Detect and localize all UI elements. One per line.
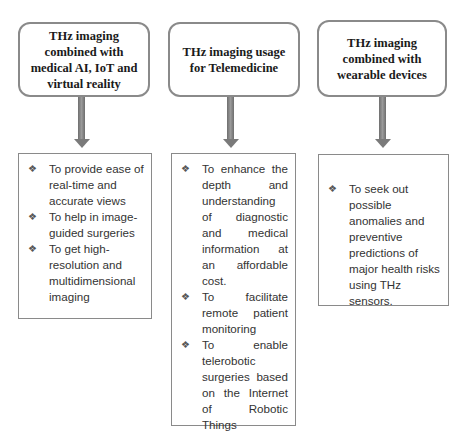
bullet-icon: ❖ xyxy=(181,161,190,177)
list-item: ❖To enable telerobotic surgeries based o… xyxy=(172,337,288,433)
list-item: ❖To seek out possible anomalies and prev… xyxy=(319,181,444,309)
bullet-icon: ❖ xyxy=(181,337,190,353)
header-box-wearables: THz imaging combined with wearable devic… xyxy=(317,20,447,97)
arrow-down-icon xyxy=(74,139,90,148)
detail-box-wearables: ❖To seek out possible anomalies and prev… xyxy=(318,154,449,306)
arrow-shaft xyxy=(379,97,386,140)
bullet-icon: ❖ xyxy=(28,241,37,257)
list-item: ❖To facilitate remote patient monitoring xyxy=(172,289,288,337)
arrow-down-icon xyxy=(223,139,239,148)
list-item: ❖To provide ease of real-time and accura… xyxy=(19,161,151,209)
list-item: ❖To enhance the depth and understanding … xyxy=(172,161,288,289)
bullet-icon: ❖ xyxy=(328,181,337,197)
list-item: ❖To get high-resolution and multidimensi… xyxy=(19,241,151,305)
header-box-telemedicine: THz imaging usage for Telemedicine xyxy=(168,22,300,97)
arrow-shaft xyxy=(78,97,85,140)
benefit-list: ❖To enhance the depth and understanding … xyxy=(172,161,288,433)
detail-box-ai-iot-vr: ❖To provide ease of real-time and accura… xyxy=(18,153,152,319)
header-title: THz imaging combined with medical AI, Io… xyxy=(26,28,142,92)
benefit-list: ❖To provide ease of real-time and accura… xyxy=(19,161,151,305)
arrow-shaft xyxy=(227,97,234,140)
header-box-ai-iot-vr: THz imaging combined with medical AI, Io… xyxy=(18,22,150,97)
header-title: THz imaging combined with wearable devic… xyxy=(325,35,439,83)
bullet-icon: ❖ xyxy=(181,289,190,305)
bullet-icon: ❖ xyxy=(28,161,37,177)
benefit-list: ❖To seek out possible anomalies and prev… xyxy=(319,181,444,309)
bullet-icon: ❖ xyxy=(28,209,37,225)
list-item: ❖To help in image-guided surgeries xyxy=(19,209,151,241)
header-title: THz imaging usage for Telemedicine xyxy=(176,44,292,76)
arrow-down-icon xyxy=(375,139,391,148)
detail-box-telemedicine: ❖To enhance the depth and understanding … xyxy=(171,153,296,426)
